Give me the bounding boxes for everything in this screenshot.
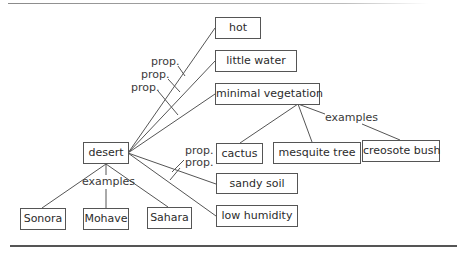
node-sandy-soil: sandy soil xyxy=(216,173,298,194)
label-examples-vegetation: examples xyxy=(325,112,378,124)
label-prop-low-humidity: prop. xyxy=(185,157,213,169)
bottom-rule xyxy=(10,245,457,247)
node-little-water: little water xyxy=(215,50,297,72)
label-examples-desert: examples xyxy=(82,176,135,188)
node-cactus: cactus xyxy=(216,143,263,164)
label-prop-hot: prop. xyxy=(151,56,179,68)
node-low-humidity: low humidity xyxy=(216,205,298,227)
node-creosote-bush: creosote bush xyxy=(362,140,440,162)
label-prop-minimal-vegetation: prop. xyxy=(131,82,159,94)
label-prop-little-water: prop. xyxy=(141,69,169,81)
node-mohave: Mohave xyxy=(83,208,129,230)
node-mesquite-tree: mesquite tree xyxy=(273,142,361,164)
node-sonora: Sonora xyxy=(20,208,66,230)
node-sahara: Sahara xyxy=(147,207,192,229)
node-hot: hot xyxy=(215,17,261,39)
node-minimal-vegetation: minimal vegetation xyxy=(215,83,320,105)
node-desert: desert xyxy=(83,142,129,164)
